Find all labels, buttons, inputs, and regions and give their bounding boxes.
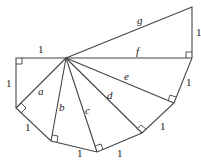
right-angle-mark xyxy=(186,52,192,58)
label-d: d xyxy=(107,89,113,101)
label-leg-b5-b6: 1 xyxy=(186,76,192,88)
right-angle-mark xyxy=(21,103,26,113)
label-e: e xyxy=(124,70,129,82)
segment-e xyxy=(66,58,174,103)
label-leg-b1-b2: 1 xyxy=(25,121,31,133)
label-leg-b6-b7: 1 xyxy=(196,26,201,38)
label-leg-b4-b5: 1 xyxy=(160,120,166,132)
label-a: a xyxy=(38,85,44,97)
segment-c xyxy=(66,58,97,152)
label-f: f xyxy=(136,45,141,57)
label-top-leg: 1 xyxy=(38,43,44,55)
right-angle-mark xyxy=(137,125,146,129)
spiral-diagram: 1 1 1 1 1 1 1 1 a b c d e f g xyxy=(0,0,201,161)
label-leg-b2-b3: 1 xyxy=(77,147,83,159)
outer-boundary xyxy=(16,7,192,152)
label-leg-b3-b4: 1 xyxy=(117,147,123,159)
segment-d xyxy=(66,58,142,133)
label-g: g xyxy=(137,14,143,26)
label-c: c xyxy=(85,104,90,116)
label-b: b xyxy=(59,101,65,113)
right-angle-mark xyxy=(16,58,22,64)
label-left-leg: 1 xyxy=(6,77,12,89)
